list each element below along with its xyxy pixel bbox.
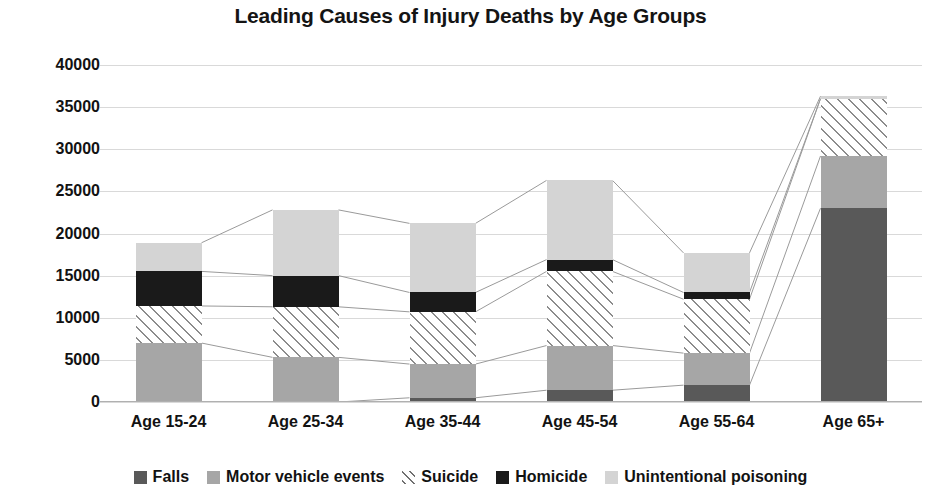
bar-groups (100, 65, 922, 402)
bar-segment-unintentional-poisoning[interactable] (136, 243, 202, 272)
stacked-bar[interactable] (273, 65, 339, 402)
y-axis-tick-label: 5000 (8, 351, 100, 369)
bar-segment-unintentional-poisoning[interactable] (684, 253, 750, 293)
bar-segment-suicide[interactable] (684, 299, 750, 353)
bar-segment-falls[interactable] (821, 208, 887, 402)
bar-segment-suicide[interactable] (273, 307, 339, 358)
legend-label: Motor vehicle events (226, 468, 384, 486)
y-axis-tick-label: 15000 (8, 267, 100, 285)
chart-title: Leading Causes of Injury Deaths by Age G… (0, 4, 941, 28)
x-axis-tick-label-age-55-64: Age 55-64 (648, 408, 785, 438)
x-axis-tick-label-age-35-44: Age 35-44 (374, 408, 511, 438)
plot-area (100, 65, 922, 402)
stacked-bar[interactable] (821, 65, 887, 402)
legend-item-motor-vehicle-events[interactable]: Motor vehicle events (207, 468, 384, 486)
chart-container: Leading Causes of Injury Deaths by Age G… (0, 0, 941, 497)
bar-segment-suicide[interactable] (410, 312, 476, 364)
x-axis-tick-label-age-65: Age 65+ (785, 408, 922, 438)
bar-segment-motor-vehicle-events[interactable] (136, 343, 202, 402)
suicide-swatch (402, 471, 415, 484)
bar-segment-suicide[interactable] (136, 306, 202, 343)
legend-label: Suicide (421, 468, 478, 486)
bar-group-age-35-44[interactable] (374, 65, 511, 402)
legend-item-unintentional-poisoning[interactable]: Unintentional poisoning (605, 468, 807, 486)
unintentional-poisoning-swatch (605, 471, 618, 484)
bar-segment-motor-vehicle-events[interactable] (547, 346, 613, 391)
bar-segment-unintentional-poisoning[interactable] (547, 180, 613, 259)
y-axis-tick-label: 35000 (8, 98, 100, 116)
bar-segment-motor-vehicle-events[interactable] (273, 357, 339, 402)
legend-item-falls[interactable]: Falls (134, 468, 189, 486)
y-axis-tick-label: 25000 (8, 182, 100, 200)
y-axis-tick-label: 40000 (8, 56, 100, 74)
stacked-bar[interactable] (136, 65, 202, 402)
bar-segment-suicide[interactable] (547, 271, 613, 345)
bar-group-age-25-34[interactable] (237, 65, 374, 402)
bar-segment-homicide[interactable] (547, 260, 613, 272)
bar-segment-motor-vehicle-events[interactable] (684, 353, 750, 385)
x-axis-tick-label-age-45-54: Age 45-54 (511, 408, 648, 438)
y-axis-tick-label: 0 (8, 393, 100, 411)
stacked-bar[interactable] (410, 65, 476, 402)
y-axis-tick-label: 20000 (8, 225, 100, 243)
y-axis-tick-label: 10000 (8, 309, 100, 327)
falls-swatch (134, 471, 147, 484)
bar-segment-motor-vehicle-events[interactable] (410, 364, 476, 398)
bar-segment-unintentional-poisoning[interactable] (273, 210, 339, 276)
bar-segment-homicide[interactable] (684, 292, 750, 299)
legend-label: Unintentional poisoning (624, 468, 807, 486)
y-axis-labels: 4000035000300002500020000150001000050000 (0, 65, 100, 402)
x-axis-labels: Age 15-24Age 25-34Age 35-44Age 45-54Age … (100, 408, 922, 438)
motor-vehicle-swatch (207, 471, 220, 484)
bar-segment-unintentional-poisoning[interactable] (821, 96, 887, 99)
bar-group-age-15-24[interactable] (100, 65, 237, 402)
homicide-swatch (496, 471, 509, 484)
legend-label: Homicide (515, 468, 587, 486)
bar-segment-homicide[interactable] (410, 292, 476, 311)
bar-segment-unintentional-poisoning[interactable] (410, 223, 476, 292)
bar-segment-motor-vehicle-events[interactable] (821, 156, 887, 208)
gridline (100, 402, 922, 403)
x-axis-tick-label-age-15-24: Age 15-24 (100, 408, 237, 438)
legend-item-suicide[interactable]: Suicide (402, 468, 478, 486)
bar-segment-suicide[interactable] (821, 99, 887, 156)
bar-group-age-55-64[interactable] (648, 65, 785, 402)
stacked-bar[interactable] (547, 65, 613, 402)
legend-item-homicide[interactable]: Homicide (496, 468, 587, 486)
y-axis-tick-label: 30000 (8, 140, 100, 158)
bar-group-age-65[interactable] (785, 65, 922, 402)
bar-segment-homicide[interactable] (273, 276, 339, 307)
stacked-bar[interactable] (684, 65, 750, 402)
x-axis-line (100, 401, 922, 402)
x-axis-tick-label-age-25-34: Age 25-34 (237, 408, 374, 438)
bar-group-age-45-54[interactable] (511, 65, 648, 402)
legend-label: Falls (153, 468, 189, 486)
chart-legend: FallsMotor vehicle eventsSuicideHomicide… (0, 468, 941, 486)
bar-segment-homicide[interactable] (136, 271, 202, 306)
bar-segment-falls[interactable] (684, 385, 750, 402)
